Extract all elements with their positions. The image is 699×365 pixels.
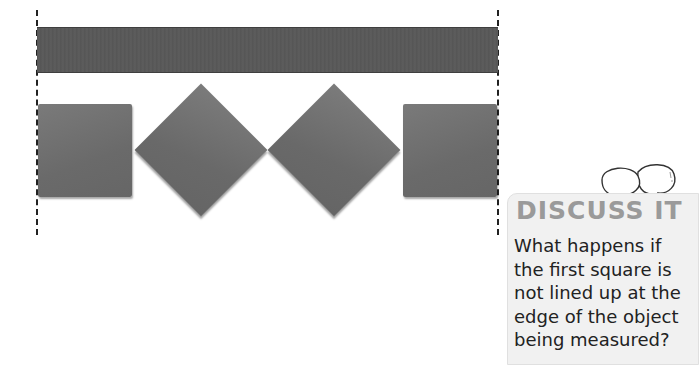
unit-square-tilted-2 <box>135 84 268 217</box>
discuss-question: What happens if the first square is not … <box>514 234 694 352</box>
question-line: What happens if <box>514 234 694 258</box>
unit-square-1 <box>38 104 132 197</box>
unit-square-tilted-3 <box>268 84 401 217</box>
ribbon-object <box>37 27 498 73</box>
question-line: edge of the object <box>514 305 694 329</box>
question-line: being measured? <box>514 328 694 352</box>
question-line: the first square is <box>514 258 694 282</box>
question-line: not lined up at the <box>514 281 694 305</box>
discuss-it-title: DISCUSS IT <box>516 196 683 225</box>
discuss-it-panel: DISCUSS IT What happens if the first squ… <box>507 193 699 365</box>
unit-square-4 <box>403 104 497 197</box>
